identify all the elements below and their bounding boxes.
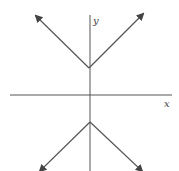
- lower-v-right-branch: [90, 122, 142, 171]
- graph-svg: y x: [0, 0, 179, 171]
- graph-canvas: y x: [0, 0, 179, 171]
- x-axis-label: x: [164, 98, 170, 109]
- y-axis-label: y: [92, 15, 99, 26]
- upper-v-left-branch: [36, 16, 89, 68]
- lower-v-left-branch: [40, 122, 90, 171]
